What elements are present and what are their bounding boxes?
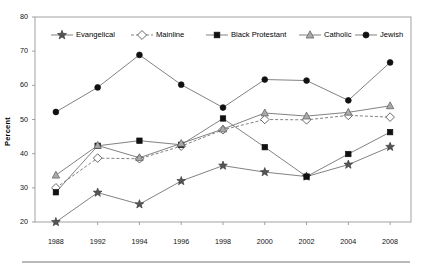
legend-label-black-protestant: Black Protestant (231, 30, 286, 39)
legend-marker-triangle-icon (306, 31, 314, 38)
y-axis-tick-50: 50 (6, 116, 28, 124)
legend-label-mainline: Mainline (156, 30, 184, 39)
y-axis-tick-60: 60 (6, 81, 28, 89)
data-point-marker (214, 32, 220, 38)
series-line (56, 55, 390, 112)
legend-marker-star-icon (57, 30, 66, 39)
chart-plot-area (0, 0, 432, 269)
data-point-marker (304, 78, 310, 84)
y-axis-tick-30: 30 (6, 184, 28, 192)
legend-marker-circle-icon (363, 32, 369, 38)
x-axis-tick-1988: 1988 (36, 238, 76, 246)
data-point-marker (260, 168, 269, 176)
data-point-marker (261, 109, 268, 116)
y-axis-tick-40: 40 (6, 150, 28, 158)
legend-label-catholic: Catholic (324, 30, 351, 39)
data-point-marker (219, 161, 228, 169)
series-mainline (52, 111, 395, 192)
x-axis-tick-1998: 1998 (203, 238, 243, 246)
data-point-marker (137, 52, 143, 58)
series-jewish (53, 52, 393, 115)
x-axis-tick-2008: 2008 (370, 238, 410, 246)
data-point-marker (53, 190, 58, 195)
x-axis-tick-2000: 2000 (245, 238, 285, 246)
data-point-marker (137, 138, 142, 143)
data-point-marker (387, 129, 392, 134)
data-point-marker (386, 113, 395, 122)
data-point-marker (306, 31, 314, 38)
data-point-marker (137, 30, 146, 39)
data-point-marker (262, 77, 268, 83)
data-point-marker (53, 109, 59, 115)
x-axis-tick-2002: 2002 (287, 238, 327, 246)
data-point-marker (304, 174, 309, 179)
data-point-marker (346, 151, 351, 156)
series-evangelical (52, 142, 395, 225)
legend-marker-diamond-icon (137, 30, 146, 39)
y-axis-tick-80: 80 (6, 13, 28, 21)
data-point-marker (363, 32, 369, 38)
legend-label-jewish: Jewish (380, 30, 403, 39)
x-axis-tick-2004: 2004 (328, 238, 368, 246)
data-point-marker (345, 97, 351, 103)
x-axis-tick-1992: 1992 (78, 238, 118, 246)
legend-marker-square-icon (214, 32, 220, 38)
data-point-marker (135, 200, 144, 208)
data-point-marker (52, 171, 59, 178)
data-point-marker (386, 142, 395, 150)
data-point-marker (260, 115, 269, 124)
data-point-marker (178, 82, 184, 88)
data-point-marker (177, 176, 186, 184)
y-axis-tick-70: 70 (6, 47, 28, 55)
data-point-marker (220, 116, 225, 121)
data-point-marker (344, 160, 353, 168)
data-point-marker (386, 102, 393, 109)
chart-figure: Percent 20304050607080198819921994199619… (0, 0, 432, 269)
data-point-marker (93, 154, 102, 163)
bottom-divider (22, 261, 410, 263)
data-point-marker (262, 144, 267, 149)
data-point-marker (220, 105, 226, 111)
data-point-marker (57, 30, 66, 39)
y-axis-label: Percent (1, 92, 15, 172)
data-point-marker (387, 60, 393, 66)
x-axis-tick-1996: 1996 (161, 238, 201, 246)
data-point-marker (95, 84, 101, 90)
x-axis-tick-1994: 1994 (119, 238, 159, 246)
legend-label-evangelical: Evangelical (76, 30, 115, 39)
y-axis-tick-20: 20 (6, 218, 28, 226)
